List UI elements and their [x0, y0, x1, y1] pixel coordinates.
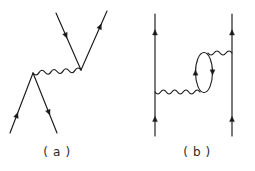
panel-label-b: ( b ) [183, 145, 211, 159]
fermion-rail-right-b-arrow-icon-0 [230, 116, 235, 121]
photon-line-a [33, 68, 81, 75]
fermion-lower-left-a [10, 73, 33, 133]
fermion-lower-right-a [33, 73, 57, 133]
fermion-loop-b [196, 53, 213, 93]
fermion-rail-right-b-arrow-icon-1 [230, 30, 235, 35]
feynman-diagram-canvas: ( a ) ( b ) [0, 0, 255, 171]
fermion-upper-left-a-arrow-icon [63, 32, 68, 38]
fermion-upper-right-a-arrow-icon [97, 24, 102, 30]
fermion-lower-left-a-arrow-icon [14, 112, 19, 118]
fermion-loop-b-arrow-icon-0 [193, 70, 198, 75]
fermion-upper-left-a [56, 13, 81, 70]
fermion-lower-right-a-arrow-icon [46, 109, 51, 115]
diagram-panel-a [10, 11, 107, 133]
photon-upper-b [208, 51, 232, 55]
feynman-figure: ( a ) ( b ) [0, 0, 255, 171]
fermion-rail-left-b-arrow-icon-1 [153, 30, 158, 35]
photon-lower-b [155, 90, 200, 94]
fermion-rail-left-b-arrow-icon-0 [153, 116, 158, 121]
fermion-loop-b-arrow-icon-1 [210, 70, 215, 75]
diagram-panel-b [153, 14, 235, 136]
fermion-upper-right-a [81, 11, 107, 70]
panel-label-a: ( a ) [43, 145, 70, 159]
